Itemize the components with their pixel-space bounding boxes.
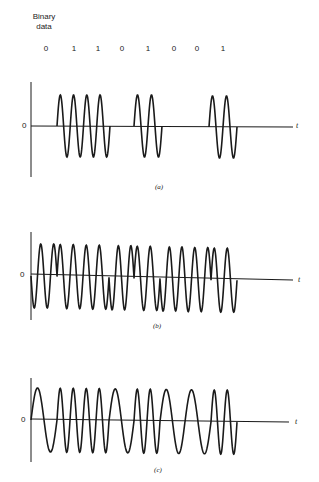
waveform-diagram (0, 0, 319, 482)
panel-b-t-label: t (298, 275, 300, 284)
panel-a-t-label: t (296, 121, 298, 130)
panel-a-waveform (31, 82, 293, 177)
panel-a-zero-label: 0 (22, 121, 26, 130)
panel-c-t-label: t (295, 417, 297, 426)
panel-b-waveform (31, 232, 293, 320)
panel-b-caption: (b) (142, 322, 172, 330)
panel-a-caption: (a) (144, 183, 174, 191)
panel-c-zero-label: 0 (21, 415, 25, 424)
panel-c-waveform (31, 378, 289, 462)
panel-c-caption: (c) (143, 466, 173, 474)
panel-b-zero-label: 0 (20, 270, 24, 279)
